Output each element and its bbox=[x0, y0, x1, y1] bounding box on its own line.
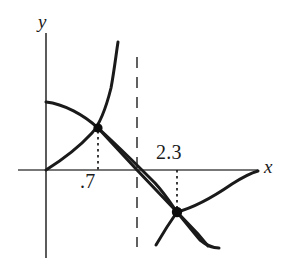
descending-segment-through-points bbox=[98, 128, 208, 246]
math-graph-figure: y x .7 2.3 bbox=[0, 0, 290, 271]
x-axis-label: x bbox=[264, 157, 272, 176]
lower-left-tail-curve bbox=[156, 212, 177, 245]
plot-canvas bbox=[0, 0, 290, 271]
intersection-point-1-marker bbox=[93, 123, 102, 132]
point-1-value-label: .7 bbox=[80, 171, 96, 191]
y-axis-label: y bbox=[38, 12, 46, 31]
intersection-point-2-marker bbox=[172, 207, 182, 217]
increasing-curve-right-branch bbox=[177, 171, 258, 212]
increasing-curve-left-branch bbox=[46, 42, 118, 170]
point-2-value-label: 2.3 bbox=[156, 142, 182, 162]
